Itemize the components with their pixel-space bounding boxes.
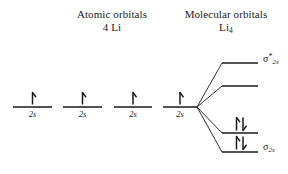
mo-diagram-page: Atomic orbitals 4 Li Molecular orbitals … [0,0,288,174]
atomic-orbital-label-3: 2s [108,109,158,119]
atomic-orbital-label-4: 2s [157,109,203,119]
atomic-orbital-electron-3 [133,93,136,105]
atomic-orbital-electron-4 [180,93,183,105]
molecular-orbital-label-sigma-2s-bonding-lower: σ2s [263,141,275,154]
molecular-orbital-electron-down-3 [243,118,246,131]
mo-label-subscript: 2s [272,58,278,66]
molecular-orbital-levels-group [222,63,258,152]
molecular-orbital-electron-up-3 [237,118,240,131]
atomic-orbital-electron-1 [33,93,36,105]
mo-label-subscript: 2s [268,146,274,154]
atomic-orbital-electron-2 [83,93,86,105]
correlation-line-2 [197,86,222,107]
molecular-orbital-electron-up-4 [237,137,240,150]
atomic-orbital-label-2: 2s [57,109,108,119]
electron-arrows-group [33,93,247,150]
molecular-orbital-label-sigma-2s-antibonding-upper: σ*2s [263,52,279,66]
molecular-orbital-electron-down-4 [243,137,246,150]
correlation-line-1 [197,63,222,107]
correlation-lines-group [197,63,222,152]
atomic-orbital-label-1: 2s [7,109,58,119]
energy-level-drawing [0,0,288,174]
